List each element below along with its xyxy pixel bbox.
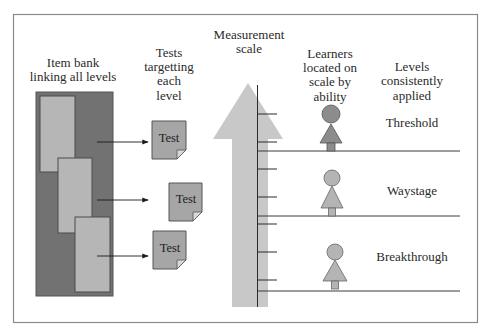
heading-line: each bbox=[157, 73, 181, 88]
heading-line: ability bbox=[313, 89, 347, 104]
test-label: Test bbox=[160, 241, 181, 255]
heading-line: scale by bbox=[309, 74, 352, 89]
heading-line: scale bbox=[236, 41, 262, 56]
test-paper-icon: Test bbox=[169, 183, 202, 221]
item-card bbox=[75, 217, 110, 292]
heading-line: Tests bbox=[156, 45, 183, 60]
heading-line: Levels bbox=[395, 59, 430, 74]
level-label-threshold: Threshold bbox=[386, 115, 439, 130]
heading-line: linking all levels bbox=[30, 69, 117, 84]
heading-line: Measurement bbox=[214, 27, 285, 42]
heading-line: consistently bbox=[381, 73, 444, 88]
heading-line: Learners bbox=[307, 46, 352, 61]
test-paper-icon: Test bbox=[152, 121, 186, 159]
test-label: Test bbox=[176, 192, 197, 206]
heading-line: Item bank bbox=[47, 55, 100, 70]
heading-line: applied bbox=[393, 88, 432, 103]
level-label-waystage: Waystage bbox=[387, 183, 437, 198]
test-paper-icon: Test bbox=[153, 231, 186, 269]
test-label: Test bbox=[159, 131, 180, 145]
diagram-canvas: Item bank linking all levels Tests targe… bbox=[0, 0, 492, 336]
heading-line: targetting bbox=[144, 59, 194, 74]
heading-line: level bbox=[156, 88, 182, 103]
item-bank bbox=[36, 92, 113, 296]
level-label-breakthrough: Breakthrough bbox=[376, 249, 448, 264]
heading-line: located on bbox=[303, 60, 357, 75]
